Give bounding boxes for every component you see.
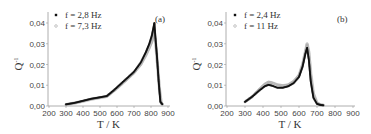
x-tick-label: 400 — [76, 109, 90, 118]
x-tick-label: 300 — [238, 109, 252, 118]
chart-panel-b: 2003004005006007008009000,000,010,020,03… — [185, 0, 371, 134]
y-axis-title-superscript: -1 — [191, 58, 197, 63]
y-tick-label: 0,03 — [207, 40, 223, 49]
y-tick-label: 0,00 — [207, 102, 223, 111]
legend-marker-filled — [234, 14, 236, 16]
legend-label: f = 2,4 Hz — [244, 10, 281, 20]
x-tick-label: 300 — [59, 109, 73, 118]
legend-marker-open — [234, 25, 237, 28]
data-point-filled — [161, 103, 163, 105]
x-tick-label: 600 — [110, 109, 124, 118]
legend: f = 2,4 Hzf = 11 Hz — [234, 10, 281, 31]
legend-label: f = 7,3 Hz — [65, 21, 102, 31]
data-point-filled — [322, 104, 324, 106]
x-axis-title: T / K — [278, 118, 301, 130]
legend-label: f = 11 Hz — [244, 21, 278, 31]
legend: f = 2,8 Hzf = 7,3 Hz — [55, 10, 102, 31]
y-axis-title: Q-1 — [12, 58, 24, 71]
legend-marker-filled — [55, 14, 57, 16]
series-primary — [65, 22, 163, 105]
legend-label: f = 2,8 Hz — [65, 10, 102, 20]
y-tick-label: 0,04 — [29, 19, 45, 28]
y-tick-label: 0,01 — [207, 81, 223, 90]
y-tick-label: 0,02 — [29, 61, 45, 70]
x-tick-label: 600 — [292, 109, 306, 118]
y-tick-label: 0,01 — [29, 81, 45, 90]
y-axis-title: Q-1 — [190, 58, 202, 71]
chart-b-svg: 2003004005006007008009000,000,010,020,03… — [185, 0, 371, 134]
chart-panel-a: 2003004005006007008009000,000,010,020,03… — [0, 0, 185, 134]
y-tick-label: 0,02 — [207, 61, 223, 70]
panel-label: (a) — [155, 14, 165, 24]
x-tick-label: 500 — [93, 109, 107, 118]
x-tick-label: 900 — [161, 109, 175, 118]
y-axis-title-superscript: -1 — [13, 58, 19, 63]
x-tick-label: 500 — [274, 109, 288, 118]
legend-marker-open — [55, 25, 58, 28]
y-tick-label: 0,04 — [207, 19, 223, 28]
x-tick-label: 800 — [144, 109, 158, 118]
x-tick-label: 900 — [346, 109, 360, 118]
x-tick-label: 800 — [328, 109, 342, 118]
chart-a-svg: 2003004005006007008009000,000,010,020,03… — [0, 0, 185, 134]
series-secondary — [65, 30, 164, 105]
y-tick-label: 0,00 — [29, 102, 45, 111]
x-tick-label: 700 — [310, 109, 324, 118]
panel-label: (b) — [337, 14, 348, 24]
y-tick-label: 0,03 — [29, 40, 45, 49]
x-tick-label: 400 — [256, 109, 270, 118]
x-axis-title: T / K — [97, 118, 120, 130]
x-tick-label: 700 — [127, 109, 141, 118]
